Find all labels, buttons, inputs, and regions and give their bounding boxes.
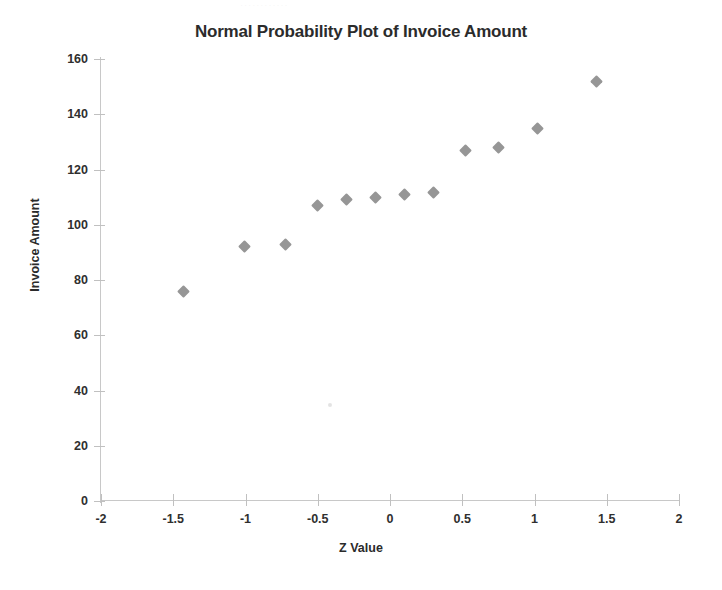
data-point-marker — [280, 238, 293, 251]
data-point-marker — [398, 188, 411, 201]
x-axis-tick-label: -1 — [216, 512, 276, 526]
data-point-marker — [427, 187, 440, 200]
y-axis-tick-label: 120 — [28, 163, 88, 177]
y-axis-tick — [94, 501, 105, 502]
y-axis-title: Invoice Amount — [28, 175, 42, 315]
x-axis-tick-label: 0 — [360, 512, 420, 526]
data-point-marker — [238, 240, 251, 253]
y-axis-tick-label: 140 — [28, 107, 88, 121]
x-axis-tick-label: -0.5 — [288, 512, 348, 526]
data-point-marker — [459, 144, 472, 157]
x-axis-title: Z Value — [0, 541, 722, 555]
x-axis-tick — [679, 494, 680, 506]
data-point-marker — [311, 199, 324, 212]
data-point-marker — [492, 141, 505, 154]
y-axis-tick-label: 60 — [28, 328, 88, 342]
plot-area — [101, 59, 679, 501]
data-point-marker — [590, 75, 603, 88]
data-point-marker — [177, 285, 190, 298]
y-axis-tick-label: 160 — [28, 52, 88, 66]
x-axis-tick-label: 1 — [505, 512, 565, 526]
x-axis-tick-label: 1.5 — [577, 512, 637, 526]
data-point-marker — [340, 194, 353, 207]
x-axis-tick-label: 2 — [649, 512, 709, 526]
scan-speck-artifact — [328, 403, 332, 407]
data-point-marker — [369, 191, 382, 204]
y-axis-tick-label: 0 — [28, 494, 88, 508]
x-axis-tick-label: -2 — [71, 512, 131, 526]
x-axis-tick-label: -1.5 — [143, 512, 203, 526]
x-axis-tick-label: 0.5 — [432, 512, 492, 526]
data-point-marker — [531, 122, 544, 135]
normal-probability-plot: Invoice Amount Z Value 02040608010012014… — [0, 0, 722, 590]
y-axis-tick-label: 80 — [28, 273, 88, 287]
y-axis-tick-label: 40 — [28, 384, 88, 398]
y-axis-tick-label: 100 — [28, 218, 88, 232]
y-axis-tick-label: 20 — [28, 439, 88, 453]
